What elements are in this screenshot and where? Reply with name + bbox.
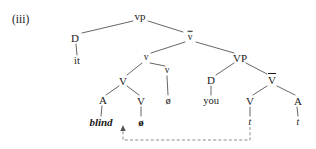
branch-Aright-to-trace	[297, 107, 298, 116]
branch-V-to-A	[106, 86, 119, 95]
branch-A-to-blind	[101, 106, 102, 116]
leaf-null-plain: ø	[165, 96, 170, 107]
leaf-it: it	[74, 56, 80, 67]
branch-Vbar-to-V	[253, 86, 267, 95]
leaf-trace-adj: t	[297, 117, 300, 127]
branch-v-to-vsmall	[150, 63, 165, 66]
node-A-left: A	[99, 95, 107, 106]
branch-vp-to-d	[82, 21, 133, 33]
branch-vp-to-vbar	[148, 21, 183, 32]
branch-vbar-to-v	[151, 42, 185, 53]
syntax-tree-figure: (iii)	[0, 0, 316, 149]
node-VP: VP	[233, 53, 247, 64]
movement-arrowhead	[120, 125, 125, 131]
node-vp: vp	[135, 11, 146, 22]
branch-d-to-it	[76, 44, 77, 55]
branch-VP-to-D	[216, 63, 234, 75]
branch-v-to-V	[127, 63, 142, 75]
branch-Vbar-to-A	[277, 86, 295, 95]
leaf-blind: blind	[89, 117, 112, 128]
node-v-right-light: v	[165, 66, 170, 76]
node-V-right: V	[246, 96, 254, 107]
leaf-null-bold: ø	[138, 117, 144, 128]
node-V-bar-projection: V	[268, 74, 276, 86]
leaf-you: you	[203, 96, 219, 107]
movement-arrow-path	[123, 127, 250, 140]
node-v-bar-projection: v	[188, 32, 193, 43]
node-v-light: v	[144, 53, 149, 63]
V-bar-glyph: V	[268, 74, 276, 86]
branch-VP-to-Vbar	[246, 63, 267, 74]
leaf-trace-verb: t	[249, 117, 252, 127]
v-bar-glyph: v	[188, 32, 193, 43]
node-d-right: D	[207, 75, 215, 86]
node-V-inner: V	[137, 96, 145, 107]
node-A-right: A	[294, 96, 302, 107]
node-d-left: D	[71, 33, 79, 44]
branch-vsmall-to-null	[167, 76, 168, 95]
branch-vbar-to-vp	[196, 42, 234, 53]
movement-arrow	[123, 127, 250, 140]
node-V-mid: V	[119, 76, 127, 87]
